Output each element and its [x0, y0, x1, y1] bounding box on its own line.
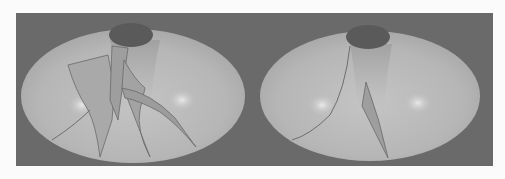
left-render [21, 23, 245, 163]
left-opening [109, 23, 153, 47]
left-glow-2 [168, 89, 196, 111]
right-opening [346, 25, 390, 49]
right-glow-2 [404, 92, 432, 114]
render-figure [0, 0, 505, 179]
right-render [260, 25, 480, 161]
